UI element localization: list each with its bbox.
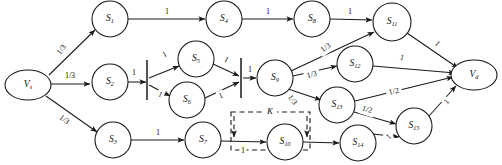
node-shape-s5 xyxy=(178,41,214,77)
edge-s12-to-vd xyxy=(373,66,455,73)
node-shape-s2 xyxy=(92,64,128,100)
edge-s13-to-s15 xyxy=(354,112,396,124)
node-s11[interactable]: S11 xyxy=(373,3,411,41)
edge-weight-s5-bar-join-1: 1 xyxy=(220,53,232,66)
node-shape-s7 xyxy=(185,122,221,158)
svg-text:1: 1 xyxy=(132,68,136,77)
edge-weight-s4-s8: 1 xyxy=(264,7,271,18)
edge-vs-to-s3 xyxy=(46,96,97,132)
figure-canvas: VsS1S2S3S4S5S6S7S8S9S10S11S12S13S14S15Vd… xyxy=(0,0,502,165)
edge-weight-s15-vd: 1 xyxy=(441,96,454,109)
edge-weight-s9-s12: 1/3 xyxy=(303,68,321,83)
node-s13[interactable]: S13 xyxy=(319,87,355,123)
node-s12[interactable]: S12 xyxy=(337,46,373,82)
edge-weight-s3-s7: 1 xyxy=(154,128,161,139)
edge-weight-bar-split-1-s5: 1 xyxy=(159,48,171,61)
node-vd[interactable]: Vd xyxy=(451,60,497,90)
node-s15[interactable]: S15 xyxy=(396,108,432,144)
edge-s10-to-s14 xyxy=(303,142,339,143)
svg-text:1/3: 1/3 xyxy=(65,71,75,80)
edge-weight-s14-s15: 1 xyxy=(383,131,396,144)
node-s2[interactable]: S2 xyxy=(92,64,128,100)
edge-s11-to-vd xyxy=(407,33,458,68)
node-shape-vs xyxy=(5,70,51,100)
node-shape-s4 xyxy=(206,1,242,37)
node-s7[interactable]: S7 xyxy=(185,122,221,158)
node-shape-vd xyxy=(451,60,497,90)
edge-weight-bar-join-1-s9: 1 xyxy=(246,65,253,76)
svg-text:1: 1 xyxy=(348,7,352,16)
edge-weight-s13-vd: 1/2 xyxy=(385,85,403,99)
edge-weight-s13-s15: 1/2 xyxy=(358,102,376,117)
edge-weight-s11-vd: 1 xyxy=(431,38,444,51)
edge-weight-s2-bar-split-1: 1 xyxy=(130,68,137,79)
node-vs[interactable]: Vs xyxy=(5,70,51,100)
edge-s8-to-s11 xyxy=(330,19,372,20)
region-label-k: K xyxy=(266,106,274,116)
node-s8[interactable]: S8 xyxy=(294,1,330,37)
node-shape-s6 xyxy=(169,82,205,118)
nodes-layer: VsS1S2S3S4S5S6S7S8S9S10S11S12S13S14S15Vd xyxy=(5,1,497,161)
edge-weight-s8-s11: 1 xyxy=(346,7,353,18)
node-shape-s10 xyxy=(267,124,303,160)
edge-weight-s12-vd: 1 xyxy=(397,52,407,65)
node-shape-s12 xyxy=(337,46,373,82)
edge-weight-s7-s10: 1 xyxy=(239,146,246,157)
edge-weight-bar-split-1-s6: 1 xyxy=(154,88,165,101)
node-s10[interactable]: S10 xyxy=(267,124,303,160)
node-s5[interactable]: S5 xyxy=(178,41,214,77)
svg-text:1: 1 xyxy=(241,146,245,155)
edge-weight-s6-bar-join-1: 1 xyxy=(216,90,227,103)
node-shape-s9 xyxy=(257,60,293,96)
node-s9[interactable]: S9 xyxy=(257,60,293,96)
node-shape-s3 xyxy=(95,122,131,158)
node-shape-s1 xyxy=(92,1,128,37)
region-labels-layer: K xyxy=(263,106,277,117)
node-s6[interactable]: S6 xyxy=(169,82,205,118)
svg-text:1: 1 xyxy=(156,128,160,137)
edge-s13-to-vd xyxy=(355,77,453,101)
edge-weight-s9-s13: 1/3 xyxy=(283,90,301,109)
node-shape-s13 xyxy=(319,87,355,123)
node-s14[interactable]: S14 xyxy=(340,125,376,161)
edge-weight-s9-s11: 1/3 xyxy=(316,39,335,57)
svg-text:1: 1 xyxy=(165,7,169,16)
node-shape-s14 xyxy=(340,125,376,161)
node-shape-s8 xyxy=(294,1,330,37)
node-shape-s15 xyxy=(396,108,432,144)
edge-weight-s1-s4: 1 xyxy=(163,7,170,18)
edge-bar-split-1-to-s5 xyxy=(149,66,179,78)
node-s3[interactable]: S3 xyxy=(95,122,131,158)
node-s1[interactable]: S1 xyxy=(92,1,128,37)
svg-text:1: 1 xyxy=(248,65,252,74)
node-shape-s11 xyxy=(373,3,411,41)
edge-weight-vs-s2: 1/3 xyxy=(62,71,78,82)
directed-graph-figure: VsS1S2S3S4S5S6S7S8S9S10S11S12S13S14S15Vd… xyxy=(0,0,502,165)
svg-text:1: 1 xyxy=(266,7,270,16)
node-s4[interactable]: S4 xyxy=(206,1,242,37)
edge-s7-to-s10 xyxy=(221,141,266,142)
